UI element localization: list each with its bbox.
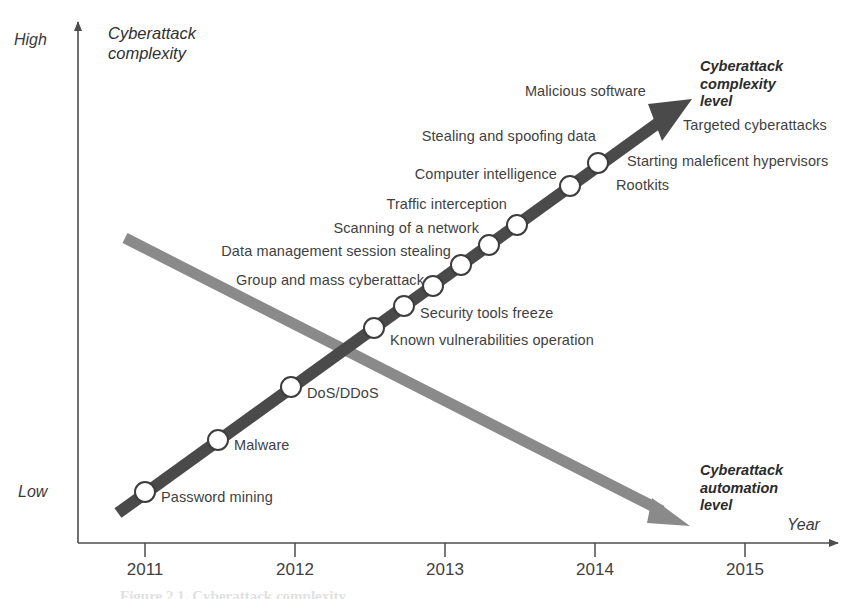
data-point-label: Rootkits — [616, 177, 669, 193]
automation-level-title-line2: automation — [700, 480, 783, 498]
automation-level-title-line1: Cyberattack — [700, 462, 783, 480]
data-point-label: Known vulnerabilities operation — [390, 332, 594, 348]
figure-cyberattack-complexity: High Low Cyberattack complexity Year 201… — [0, 0, 857, 599]
data-point-label: Targeted cyberattacks — [683, 117, 827, 133]
complexity-level-title: Cyberattack complexity level — [700, 58, 783, 111]
figure-caption: Figure 2.1. Cyberattack complexity — [120, 588, 346, 599]
y-axis-low-label: Low — [18, 483, 47, 501]
data-point-label: Computer intelligence — [415, 166, 557, 182]
x-tick-2011: 2011 — [127, 560, 164, 580]
x-axis-title: Year — [787, 516, 820, 534]
x-tick-2015: 2015 — [726, 560, 764, 580]
data-point-label: Malicious software — [525, 83, 646, 99]
data-point-label: Traffic interception — [387, 196, 507, 212]
data-point-label: Scanning of a network — [333, 220, 479, 236]
y-axis-title-line1: Cyberattack — [108, 23, 196, 43]
data-point-label: DoS/DDoS — [307, 385, 379, 401]
data-point-marker — [281, 377, 301, 397]
data-point-marker — [394, 296, 414, 316]
data-point-marker — [451, 255, 471, 275]
data-point-label: Stealing and spoofing data — [422, 128, 596, 144]
data-point-label: Data management session stealing — [221, 243, 451, 259]
x-axis-ticks — [145, 543, 745, 557]
complexity-level-title-line1: Cyberattack — [700, 58, 783, 76]
x-tick-2013: 2013 — [426, 560, 464, 580]
data-point-marker — [588, 153, 608, 173]
data-point-marker — [560, 176, 580, 196]
data-point-marker — [135, 482, 155, 502]
y-axis-high-label: High — [14, 31, 47, 49]
automation-level-title: Cyberattack automation level — [700, 462, 783, 515]
data-point-label: Starting maleficent hypervisors — [627, 153, 828, 169]
data-point-label: Password mining — [161, 489, 273, 505]
data-point-marker — [507, 215, 527, 235]
data-point-label: Group and mass cyberattack — [236, 272, 424, 288]
complexity-level-title-line2: complexity — [700, 76, 783, 94]
x-tick-2012: 2012 — [276, 560, 314, 580]
data-point-label: Malware — [234, 437, 290, 453]
complexity-level-title-line3: level — [700, 93, 783, 111]
data-point-marker — [364, 318, 384, 338]
data-point-marker — [479, 235, 499, 255]
automation-level-title-line3: level — [700, 497, 783, 515]
y-axis-title-line2: complexity — [108, 43, 186, 63]
data-point-marker — [423, 276, 443, 296]
x-tick-2014: 2014 — [576, 560, 614, 580]
data-point-marker — [208, 430, 228, 450]
data-point-label: Security tools freeze — [420, 305, 553, 321]
